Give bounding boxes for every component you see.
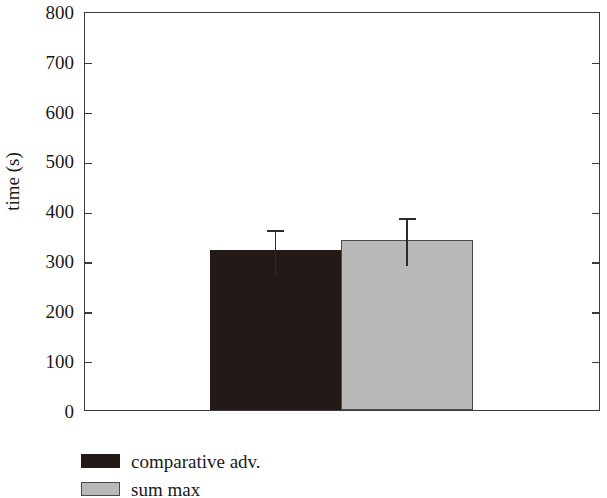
y-tick-200 <box>85 312 92 313</box>
error-bar-line-sum-max <box>406 218 408 266</box>
y-tick-100 <box>85 362 92 363</box>
y-axis-title: time (s) <box>3 102 22 262</box>
y-tick-500 <box>85 163 92 164</box>
y-tick-right-200 <box>592 312 599 313</box>
y-tick-right-300 <box>592 262 599 263</box>
y-tick-label-0: 0 <box>8 402 74 421</box>
y-tick-label-800: 800 <box>8 3 74 22</box>
legend-label-comparative-adv: comparative adv. <box>131 452 261 471</box>
bar-chart-figure: 800 700 600 500 400 300 200 100 0 time (… <box>0 0 607 498</box>
error-bar-cap-top-comparative-adv <box>267 230 284 232</box>
plot-area <box>84 12 600 411</box>
y-tick-right-700 <box>592 63 599 64</box>
dark-swatch-icon <box>81 454 120 468</box>
light-swatch-icon <box>81 482 120 496</box>
y-tick-right-600 <box>592 113 599 114</box>
legend-label-sum-max: sum max <box>131 480 200 498</box>
y-tick-right-400 <box>592 213 599 214</box>
legend: comparative adv. sum max <box>81 447 501 498</box>
y-tick-600 <box>85 113 92 114</box>
y-tick-label-200: 200 <box>8 302 74 321</box>
y-tick-right-100 <box>592 362 599 363</box>
y-tick-700 <box>85 63 92 64</box>
legend-item-sum-max: sum max <box>81 475 501 498</box>
error-bar-line-comparative-adv <box>275 230 277 275</box>
error-bar-cap-top-sum-max <box>399 218 416 220</box>
y-tick-label-700: 700 <box>8 53 74 72</box>
y-tick-400 <box>85 213 92 214</box>
legend-item-comparative-adv: comparative adv. <box>81 447 501 475</box>
y-tick-right-500 <box>592 163 599 164</box>
y-tick-300 <box>85 262 92 263</box>
y-tick-label-100: 100 <box>8 352 74 371</box>
